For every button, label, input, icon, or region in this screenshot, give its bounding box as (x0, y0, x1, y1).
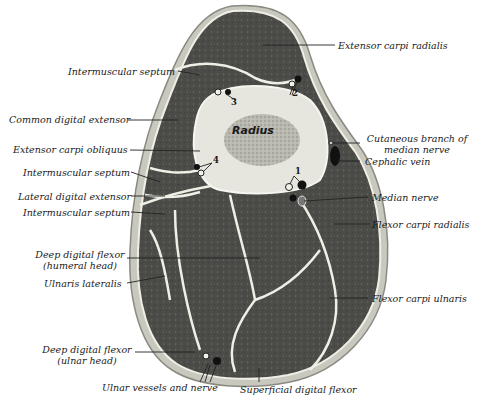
label-intermuscular-septum-mid: Intermuscular septum (23, 167, 130, 178)
label-line-2: (ulnar head) (40, 355, 134, 366)
label-deep-digital-flexor-ulnar: Deep digital flexor (ulnar head) (40, 344, 134, 366)
label-cephalic-vein: Cephalic vein (365, 156, 430, 167)
marker-3: 3 (231, 97, 237, 107)
marker-4: 4 (213, 155, 219, 165)
label-line-1: Deep digital flexor (34, 249, 126, 260)
marker-1: 1 (295, 166, 301, 176)
label-intermuscular-septum-low: Intermuscular septum (23, 207, 130, 218)
label-cutaneous-branch-median-nerve: Cutaneous branch of median nerve (362, 133, 472, 155)
label-intermuscular-septum-top: Intermuscular septum (68, 66, 175, 77)
label-line-2: median nerve (362, 144, 472, 155)
label-deep-digital-flexor-humeral: Deep digital flexor (humeral head) (34, 249, 126, 271)
label-flexor-carpi-radialis: Flexor carpi radialis (372, 219, 470, 230)
label-line-2: (humeral head) (34, 260, 126, 271)
label-extensor-carpi-obliquus: Extensor carpi obliquus (13, 144, 128, 155)
label-line-1: Deep digital flexor (40, 344, 134, 355)
label-common-digital-extensor: Common digital extensor (9, 114, 130, 125)
label-superficial-digital-flexor: Superficial digital flexor (240, 384, 357, 395)
label-extensor-carpi-radialis: Extensor carpi radialis (338, 40, 448, 51)
marker-2: 2 (292, 88, 298, 98)
label-lateral-digital-extensor: Lateral digital extensor (18, 191, 131, 202)
label-ulnar-vessels-and-nerve: Ulnar vessels and nerve (102, 382, 218, 393)
label-ulnaris-lateralis: Ulnaris lateralis (44, 278, 122, 289)
label-flexor-carpi-ulnaris: Flexor carpi ulnaris (372, 293, 467, 304)
label-line-1: Cutaneous branch of (362, 133, 472, 144)
forearm-cross-section-figure: Radius 2 3 4 1 Extensor carpi radialis I… (0, 0, 481, 408)
radius-label: Radius (232, 124, 274, 137)
label-median-nerve: Median nerve (372, 192, 439, 203)
